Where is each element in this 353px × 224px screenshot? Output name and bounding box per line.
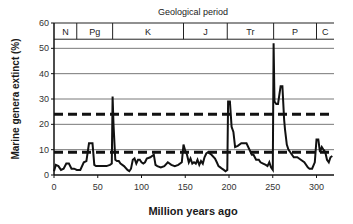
x-tick-label: 0	[51, 182, 56, 192]
y-tick-label: 30	[39, 94, 49, 104]
period-label-j: J	[203, 27, 208, 37]
y-tick-label: 40	[39, 69, 49, 79]
y-tick-label: 0	[44, 170, 49, 180]
period-label-n: N	[62, 27, 69, 37]
period-label-p: P	[292, 27, 298, 37]
period-label-tr: Tr	[246, 27, 254, 37]
extinction-chart: Geological period NPgKJTrPC 010203040506…	[0, 0, 353, 224]
period-label-k: K	[145, 27, 151, 37]
x-tick-label: 100	[134, 182, 149, 192]
geological-period-band: NPgKJTrPC	[54, 23, 334, 39]
x-tick-label: 150	[178, 182, 193, 192]
y-tick-label: 50	[39, 43, 49, 53]
chart-title: Geological period	[158, 7, 228, 17]
y-axis-ticks: 0102030405060	[39, 18, 54, 180]
x-tick-label: 300	[309, 182, 324, 192]
horizontal-gridlines	[54, 48, 334, 149]
y-tick-label: 60	[39, 18, 49, 28]
x-tick-label: 200	[221, 182, 236, 192]
x-tick-label: 50	[93, 182, 103, 192]
period-label-pg: Pg	[89, 27, 100, 37]
extinction-rate-line	[54, 43, 332, 171]
x-axis-ticks: 050100150200250300	[51, 175, 324, 192]
period-label-c: C	[322, 27, 329, 37]
x-tick-label: 250	[265, 182, 280, 192]
y-tick-label: 20	[39, 119, 49, 129]
y-tick-label: 10	[39, 145, 49, 155]
y-axis-label: Marine genera extinct (%)	[10, 38, 21, 159]
x-axis-label: Million years ago	[148, 205, 238, 217]
reference-lines	[54, 114, 334, 152]
